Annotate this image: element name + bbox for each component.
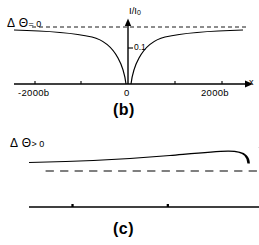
y-axis-label-b: I/I0 [129,6,141,16]
x-tick-label-b-right: 2000b [201,88,229,98]
condition-label-b: Δ Θ= 0 [7,17,41,29]
figure-container: Δ Θ= 0 I/I0 0.1 x -2000b 0 2000b (b) [0,0,259,245]
curve-c-left [29,151,249,163]
x-tick-label-b-left: -2000b [18,88,49,98]
curve-b-right [131,30,243,84]
x-axis-label-b: x [249,78,254,87]
y-axis-label-main-b: I/I [129,5,137,16]
delta-theta-symbol-b: Δ Θ [7,16,29,30]
panel-b: Δ Θ= 0 I/I0 0.1 x -2000b 0 2000b (b) [0,0,259,125]
y-tick-label-b: 0.1 [134,43,146,52]
panel-caption-b: (b) [113,102,135,118]
panel-caption-c: (c) [113,221,134,237]
curve-b-left [14,30,126,84]
delta-theta-relation-b: = 0 [29,19,42,29]
x-tick-label-b-center: 0 [124,88,130,98]
delta-theta-relation-c: > 0 [32,139,45,149]
y-axis-arrowhead-b [125,19,131,27]
y-axis-label-subscript-b: 0 [137,9,141,16]
panel-c: Δ Θ> 0 (c) [0,120,259,245]
condition-label-c: Δ Θ> 0 [10,137,44,149]
delta-theta-symbol-c: Δ Θ [10,136,32,150]
